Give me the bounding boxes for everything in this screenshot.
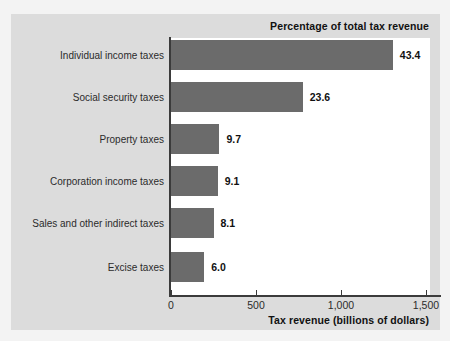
x-tick-mark bbox=[256, 290, 258, 296]
x-axis-title: Tax revenue (billions of dollars) bbox=[268, 314, 429, 326]
category-label: Social security taxes bbox=[73, 92, 164, 103]
category-label: Property taxes bbox=[100, 134, 164, 145]
category-label: Individual income taxes bbox=[60, 50, 164, 61]
x-tick-mark bbox=[171, 290, 173, 296]
bar-row: Sales and other indirect taxes 8.1 bbox=[11, 208, 440, 238]
bar-value-label: 23.6 bbox=[310, 91, 330, 103]
bar-value-label: 6.0 bbox=[211, 261, 226, 273]
chart-panel: Percentage of total tax revenue Individu… bbox=[11, 14, 440, 330]
bar[interactable] bbox=[171, 166, 218, 196]
bar-row: Excise taxes 6.0 bbox=[11, 252, 440, 282]
bar[interactable] bbox=[171, 124, 219, 154]
bar-row: Individual income taxes 43.4 bbox=[11, 40, 440, 70]
x-tick-label: 0 bbox=[168, 299, 174, 311]
bar[interactable] bbox=[171, 208, 214, 238]
category-label: Excise taxes bbox=[108, 262, 164, 273]
bar-value-label: 8.1 bbox=[221, 217, 236, 229]
x-tick-mark bbox=[341, 290, 343, 296]
bar-value-label: 43.4 bbox=[400, 49, 420, 61]
category-label: Corporation income taxes bbox=[50, 176, 164, 187]
figure: Percentage of total tax revenue Individu… bbox=[0, 0, 450, 341]
bar-row: Property taxes 9.7 bbox=[11, 124, 440, 154]
bar-row: Social security taxes 23.6 bbox=[11, 82, 440, 112]
chart-note: Percentage of total tax revenue bbox=[270, 20, 429, 32]
bar-value-label: 9.1 bbox=[225, 175, 240, 187]
x-tick-mark bbox=[426, 290, 428, 296]
bar-value-label: 9.7 bbox=[226, 133, 241, 145]
category-label: Sales and other indirect taxes bbox=[32, 218, 164, 229]
x-tick-label: 1,000 bbox=[328, 299, 354, 311]
bar[interactable] bbox=[171, 82, 303, 112]
bar-row: Corporation income taxes 9.1 bbox=[11, 166, 440, 196]
bar[interactable] bbox=[171, 40, 393, 70]
bar[interactable] bbox=[171, 252, 204, 282]
x-tick-label: 500 bbox=[247, 299, 265, 311]
x-tick-label: 1,500 bbox=[413, 299, 439, 311]
x-axis-line bbox=[169, 295, 441, 297]
